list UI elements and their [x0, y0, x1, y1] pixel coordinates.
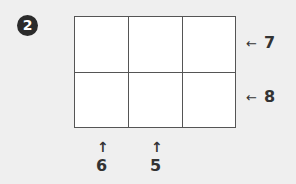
cell-grid	[74, 16, 236, 128]
left-arrow-icon: ←	[246, 90, 257, 105]
row-label-7: 7	[264, 33, 275, 52]
column-label-5: 5	[150, 156, 161, 175]
row-label-8: 8	[264, 87, 275, 106]
left-arrow-icon: ←	[246, 36, 257, 51]
column-label-6: 6	[96, 156, 107, 175]
step-number-badge: 2	[17, 15, 38, 36]
up-arrow-icon: ↑	[97, 139, 109, 155]
row-divider	[75, 72, 235, 73]
up-arrow-icon: ↑	[151, 139, 163, 155]
